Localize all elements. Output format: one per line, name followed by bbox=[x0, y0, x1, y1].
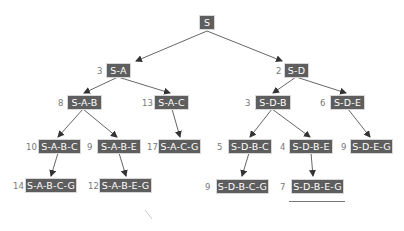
cost-s-a-b-c-g: 14 bbox=[13, 180, 24, 193]
node-s: S bbox=[200, 16, 214, 29]
node-s-d-b-c-g: S-D-B-C-G bbox=[217, 180, 268, 193]
node-s-a-b-c-g: S-A-B-C-G bbox=[26, 179, 76, 192]
cost-s-d-e: 6 bbox=[320, 97, 325, 110]
search-tree-diagram: S 3 S-A 2 S-D 8 S-A-B 13 S-A-C 3 S-D-B 6… bbox=[0, 0, 404, 231]
tree-edges bbox=[0, 0, 404, 231]
cost-s-d-b: 3 bbox=[245, 97, 250, 110]
cost-s-d-b-e-g: 7 bbox=[280, 181, 285, 194]
node-s-d-e-g: S-D-E-G bbox=[351, 140, 392, 153]
node-s-a-b-e-g: S-A-B-E-G bbox=[100, 179, 151, 192]
node-s-a-b-c: S-A-B-C bbox=[39, 140, 80, 153]
node-s-d-b-e: S-D-B-E bbox=[290, 140, 332, 153]
cost-s-d-b-c-g: 9 bbox=[205, 181, 210, 194]
node-s-a-b-e: S-A-B-E bbox=[98, 140, 140, 153]
node-s-a: S-A bbox=[107, 64, 130, 77]
cost-s-a-b: 8 bbox=[58, 97, 63, 110]
cost-s-d-b-e: 4 bbox=[280, 141, 285, 154]
node-s-a-c-g: S-A-C-G bbox=[159, 140, 200, 153]
node-s-a-c: S-A-C bbox=[155, 96, 188, 109]
cost-s-a-c: 13 bbox=[142, 97, 153, 110]
node-s-d-b-e-g: S-D-B-E-G bbox=[292, 180, 343, 193]
cost-s-a-c-g: 17 bbox=[147, 141, 158, 154]
cost-s-d-b-c: 5 bbox=[217, 141, 222, 154]
cost-s-d: 2 bbox=[276, 65, 281, 78]
node-s-d-e: S-D-E bbox=[331, 96, 364, 109]
node-s-d-b: S-D-B bbox=[256, 96, 290, 109]
solution-underline bbox=[289, 201, 345, 202]
cost-s-a: 3 bbox=[97, 65, 102, 78]
cost-s-a-b-e: 9 bbox=[87, 141, 92, 154]
cost-s-d-e-g: 9 bbox=[341, 141, 346, 154]
cost-s-a-b-e-g: 12 bbox=[88, 180, 99, 193]
node-s-d: S-D bbox=[285, 64, 308, 77]
node-s-a-b: S-A-B bbox=[68, 96, 101, 109]
cost-s-a-b-c: 10 bbox=[26, 141, 37, 154]
node-s-d-b-c: S-D-B-C bbox=[229, 140, 271, 153]
stray-mark bbox=[145, 210, 152, 219]
